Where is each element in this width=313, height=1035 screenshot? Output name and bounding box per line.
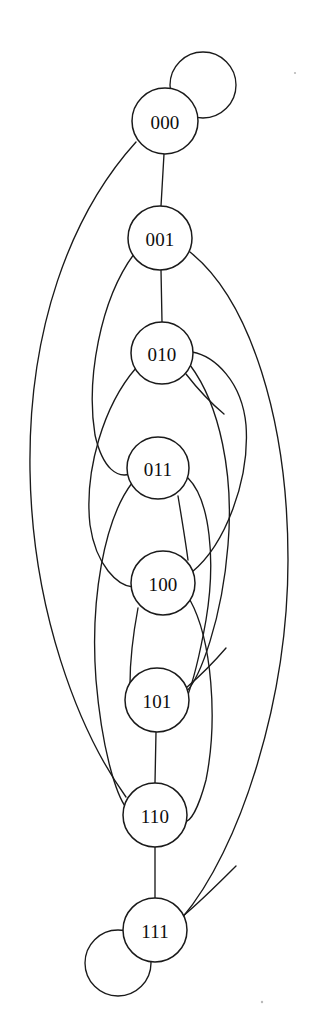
edge-101-110	[155, 732, 156, 783]
edge-010-011-cross	[186, 374, 224, 414]
edge-001-111	[182, 252, 288, 918]
edge-100-110	[184, 600, 212, 822]
edge-100-010	[192, 352, 246, 572]
edge-011-100	[178, 496, 188, 560]
node-layer: 000 001 010 011 100 101	[123, 88, 198, 962]
node-000-label: 000	[150, 112, 179, 133]
node-110-label: 110	[141, 806, 169, 827]
node-101-label: 101	[142, 691, 171, 712]
edge-011-110	[95, 483, 132, 809]
node-101[interactable]: 101	[125, 668, 189, 732]
node-001[interactable]: 001	[128, 206, 192, 270]
edge-000-001	[161, 154, 164, 206]
scan-speck-bottom-right	[261, 1001, 263, 1003]
node-111[interactable]: 111	[123, 898, 187, 962]
node-111-label: 111	[141, 921, 169, 942]
edge-000-110	[30, 142, 136, 797]
node-100[interactable]: 100	[131, 551, 195, 615]
edge-111-upper-right-stub	[183, 866, 236, 916]
node-001-label: 001	[145, 229, 174, 250]
node-011[interactable]: 011	[127, 437, 189, 499]
graph-canvas: 000 001 010 011 100 101	[0, 0, 313, 1035]
node-100-label: 100	[148, 574, 177, 595]
self-loop-layer	[85, 52, 236, 996]
node-010[interactable]: 010	[131, 322, 193, 384]
edge-100-101	[130, 608, 138, 684]
node-010-label: 010	[147, 344, 176, 365]
node-011-label: 011	[144, 459, 172, 480]
scan-speck-top-right	[294, 72, 296, 74]
node-110[interactable]: 110	[123, 783, 187, 847]
node-000[interactable]: 000	[132, 88, 198, 154]
scan-artifact-layer	[261, 72, 296, 1003]
de-bruijn-graph-figure: 000 001 010 011 100 101	[0, 0, 313, 1035]
edge-001-010	[161, 270, 162, 322]
